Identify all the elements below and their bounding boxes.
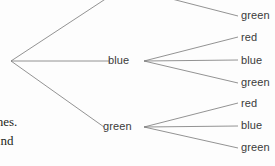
body-text-line-2: land bbox=[0, 131, 62, 150]
leaf-label-6-blue: blue bbox=[241, 120, 262, 131]
leaf-label-7-green: green bbox=[241, 142, 270, 153]
node-label-blue: blue bbox=[108, 55, 129, 66]
leaf-label-5-red: red bbox=[241, 98, 257, 109]
branch-blue-to-blue bbox=[144, 60, 238, 61]
leaf-label-2-red: red bbox=[241, 32, 257, 43]
leaf-label-3-blue: blue bbox=[241, 55, 262, 66]
branch-green-to-blue bbox=[144, 126, 238, 127]
leaf-label-4-green: green bbox=[241, 77, 270, 88]
tree-diagram-canvas: blue green green red blue green red blue… bbox=[0, 0, 275, 166]
branch-root-to-offscreen-top bbox=[11, 0, 107, 61]
clipped-body-text: ches. land bbox=[0, 112, 62, 150]
body-text-line-1: ches. bbox=[0, 112, 62, 131]
branch-blue-to-green bbox=[144, 61, 238, 83]
branch-blue-to-red bbox=[144, 37, 238, 61]
branch-green-to-green bbox=[144, 127, 238, 148]
branch-green-to-red bbox=[144, 103, 238, 127]
node-label-green: green bbox=[103, 121, 132, 132]
branch-offscreen-to-green-1 bbox=[168, 0, 238, 16]
leaf-label-1-green: green bbox=[241, 10, 270, 21]
